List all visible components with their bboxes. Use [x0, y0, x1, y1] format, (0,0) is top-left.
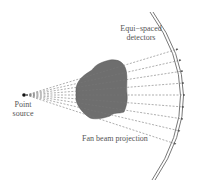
fan-beam-diagram: Equi−spaced detectors Point source Fan b… [0, 0, 204, 188]
point-source-dot [22, 93, 26, 97]
detectors-label-line1: Equi−spaced [115, 24, 167, 33]
source-label-line1: Point [8, 100, 38, 109]
point-source-label: Point source [8, 100, 38, 118]
source-label-line2: source [8, 109, 38, 118]
detectors-label-line2: detectors [115, 33, 167, 42]
detectors-label: Equi−spaced detectors [115, 24, 167, 42]
object-blob [76, 60, 127, 119]
projection-label: Fan beam projection [80, 134, 150, 143]
